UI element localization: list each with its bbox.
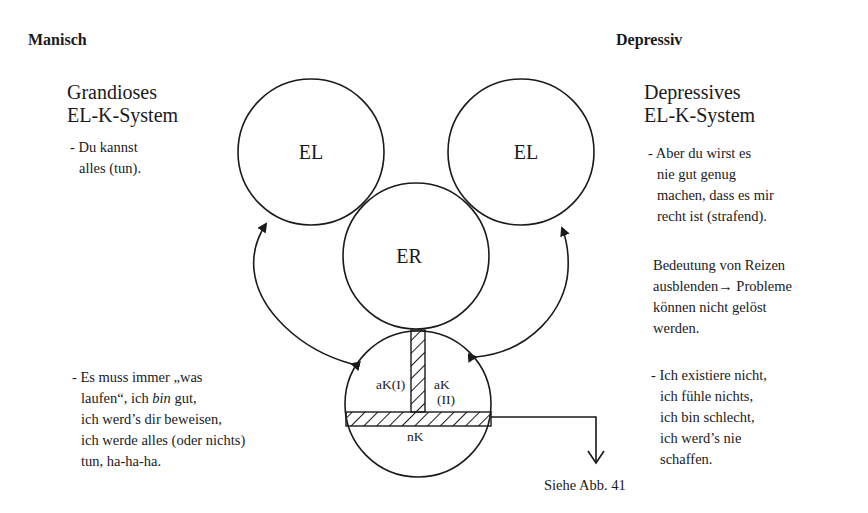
manic-bottom-quote: - Es muss immer „was laufen“, ich bin gu… (72, 367, 245, 472)
quote-line: recht ist (strafend). (648, 206, 774, 227)
note-line: können nicht gelöst (653, 297, 792, 318)
er-label: ER (396, 245, 422, 267)
depressive-system-title: Depressives EL-K-System (644, 81, 755, 127)
er-circle: ER (343, 183, 489, 329)
nk-label: nK (407, 429, 424, 444)
note-line: ausblenden→ Probleme (653, 276, 792, 297)
emphasis-text: bin (152, 390, 171, 406)
quote-line: schaffen. (651, 449, 767, 470)
k-circle: aK(I) aK (II) nK (345, 330, 491, 477)
note-line: werden. (653, 318, 792, 339)
right-el-circle: EL (448, 79, 594, 225)
note-line: Bedeutung von Reizen (653, 255, 792, 276)
quote-line: - Ich existiere nicht, (651, 365, 767, 386)
quote-line: ich bin schlecht, (651, 407, 767, 428)
system-title-line: Depressives (644, 81, 755, 104)
ak2-sub-label: (II) (437, 392, 455, 407)
quote-line: nie gut genug (648, 164, 774, 185)
quote-line: - Du kannst (70, 137, 141, 158)
left-double-arrow (254, 224, 352, 364)
quote-line: tun, ha-ha-ha. (72, 451, 245, 472)
system-title-line: EL-K-System (67, 104, 178, 127)
system-title-line: EL-K-System (644, 104, 755, 127)
reference-connector (491, 417, 604, 463)
system-title-line: Grandioses (67, 81, 178, 104)
quote-line: alles (tun). (70, 158, 141, 179)
figure-reference: Siehe Abb. 41 (544, 475, 626, 496)
left-el-circle: EL (238, 79, 384, 225)
depressive-top-quote: - Aber du wirst es nie gut genug machen,… (648, 143, 774, 227)
horizontal-hatched-barrier (346, 412, 491, 426)
manic-top-quote: - Du kannst alles (tun). (70, 137, 141, 179)
quote-line: laufen“, ich bin gut, (72, 388, 245, 409)
depressive-note: Bedeutung von Reizen ausblenden→ Problem… (653, 255, 792, 339)
depressive-bottom-quote: - Ich existiere nicht, ich fühle nichts,… (651, 365, 767, 470)
vertical-hatched-barrier (411, 330, 425, 412)
depressive-heading: Depressiv (616, 31, 682, 49)
quote-line: ich fühle nichts, (651, 386, 767, 407)
left-el-label: EL (299, 141, 323, 163)
quote-line: - Es muss immer „was (72, 367, 245, 388)
quote-line: ich werde alles (oder nichts) (72, 430, 245, 451)
ak1-label: aK(I) (376, 377, 405, 392)
manic-heading: Manisch (28, 31, 87, 49)
quote-line: - Aber du wirst es (648, 143, 774, 164)
ak2-label: aK (434, 377, 450, 392)
quote-line: ich werd’s nie (651, 428, 767, 449)
quote-line: ich werd’s dir beweisen, (72, 409, 245, 430)
grandiose-system-title: Grandioses EL-K-System (67, 81, 178, 127)
right-el-label: EL (514, 141, 538, 163)
right-double-arrow (476, 228, 568, 357)
quote-line: machen, dass es mir (648, 185, 774, 206)
